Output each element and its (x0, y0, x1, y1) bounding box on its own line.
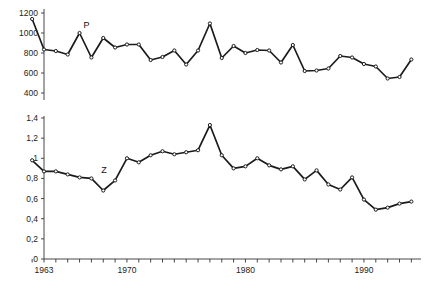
z-data-point (31, 159, 34, 162)
z-data-point (149, 154, 152, 157)
z-data-point (398, 202, 401, 205)
z-data-point (208, 123, 211, 126)
chart-figure: 40060080010001200 P 00,20,40,60,811,21,4… (0, 0, 436, 285)
z-data-point (42, 170, 45, 173)
z-series-markers (31, 123, 413, 211)
z-data-point (374, 208, 377, 211)
z-data-point (291, 165, 294, 168)
z-data-point (256, 157, 259, 160)
z-data-point (220, 154, 223, 157)
z-data-point (362, 198, 365, 201)
z-data-point (232, 167, 235, 170)
z-data-point (66, 173, 69, 176)
z-series-line (32, 125, 411, 210)
z-data-point (185, 151, 188, 154)
z-data-point (303, 178, 306, 181)
z-data-point (125, 157, 128, 160)
z-data-point (410, 200, 413, 203)
z-data-point (90, 177, 93, 180)
z-data-point (351, 176, 354, 179)
z-data-point (196, 149, 199, 152)
series-label-z: Z (101, 166, 107, 175)
z-data-point (54, 170, 57, 173)
z-data-point (161, 150, 164, 153)
z-plot-area (0, 0, 436, 285)
z-data-point (339, 188, 342, 191)
z-data-point (244, 165, 247, 168)
z-data-point (268, 164, 271, 167)
z-data-point (173, 153, 176, 156)
z-data-point (279, 168, 282, 171)
x-tickmarks (32, 259, 411, 263)
z-data-point (386, 206, 389, 209)
z-data-point (315, 169, 318, 172)
z-data-point (78, 176, 81, 179)
z-data-point (137, 161, 140, 164)
z-data-point (114, 179, 117, 182)
z-data-point (327, 183, 330, 186)
z-data-point (102, 189, 105, 192)
